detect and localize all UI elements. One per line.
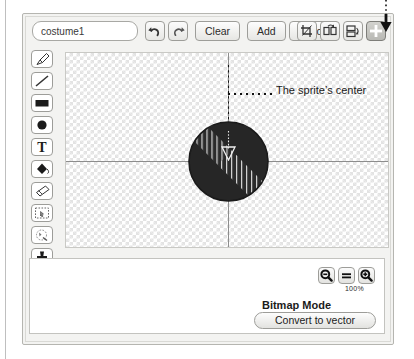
crop-button[interactable] [297,21,317,41]
magic-wand-icon [32,227,52,243]
rectangle-icon [32,95,52,111]
redo-button[interactable] [168,21,188,41]
costume-name-input[interactable] [32,21,138,41]
ellipse-tool[interactable] [31,116,53,134]
ellipse-icon [32,117,52,133]
paint-bucket-icon [32,161,52,177]
rectangle-tool[interactable] [31,94,53,112]
paint-editor-bottom-panel: 100% Bitmap Mode Convert to vector [29,258,385,334]
annotation-leader-dots [228,93,276,95]
text-tool[interactable]: T [31,138,53,156]
flip-vertical-button[interactable] [343,21,363,41]
flip-vertical-icon [344,22,362,40]
drawing-canvas[interactable]: The sprite’s center [65,52,389,248]
undo-button[interactable] [145,21,165,41]
annotation-label: The sprite’s center [276,84,366,96]
flip-horizontal-icon [321,22,339,40]
equals-icon [339,268,354,283]
transform-button-group [297,21,387,41]
sprite-center-marker [220,131,237,161]
text-icon: T [32,139,52,155]
zoom-reset-button[interactable] [338,267,355,284]
page-margin-rule [5,0,6,359]
convert-to-vector-button[interactable]: Convert to vector [254,312,376,329]
tool-palette: T [29,50,59,250]
line-icon [32,73,52,89]
undo-arrow-icon [146,22,164,40]
zoom-percent-label: 100% [345,285,364,292]
flip-horizontal-button[interactable] [320,21,340,41]
select-rectangle-icon [32,205,52,221]
zoom-out-magnifier-icon [319,268,334,283]
paintbrush-icon [32,51,52,67]
zoom-out-button[interactable] [318,267,335,284]
clear-button[interactable]: Clear [195,21,240,41]
zoom-in-button[interactable] [358,267,375,284]
svg-text:T: T [37,140,47,155]
clipped-top-text [60,0,390,3]
redo-arrow-icon [169,22,187,40]
add-button[interactable]: Add [247,21,286,41]
reshape-tool[interactable] [31,226,53,244]
bitmap-mode-label: Bitmap Mode [262,299,331,311]
eraser-icon [32,183,52,199]
zoom-control-group [318,267,376,284]
paint-editor-toolbar: Clear Add Import [23,14,395,50]
line-tool[interactable] [31,72,53,90]
select-tool[interactable] [31,204,53,222]
callout-arrow [379,0,393,34]
eraser-tool[interactable] [31,182,53,200]
paint-editor-window: Clear Add Import [22,13,394,345]
crop-icon [298,22,316,40]
fill-tool[interactable] [31,160,53,178]
zoom-in-magnifier-icon [359,268,374,283]
paintbrush-tool[interactable] [31,50,53,68]
